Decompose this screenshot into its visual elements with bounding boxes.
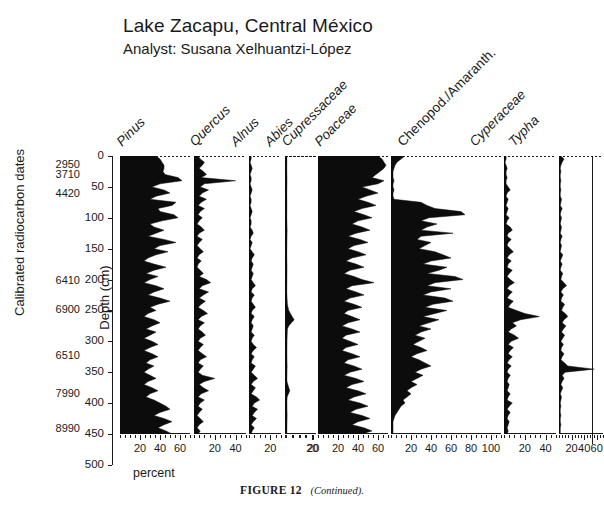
page-title: Lake Zacapu, Central México [123, 14, 543, 37]
x-tick [446, 435, 447, 438]
diagram-right-border [592, 156, 593, 444]
x-tick [323, 435, 324, 438]
x-tick [568, 435, 569, 438]
x-tick-label-cyperaceae-40: 40 [533, 442, 559, 454]
figure-caption: FIGURE 12 (Continued). [0, 484, 604, 496]
x-tick [436, 435, 437, 438]
x-tick [180, 435, 181, 440]
x-tick [501, 435, 502, 438]
x-tick [204, 435, 205, 438]
depth-tick-label-50: 50 [76, 180, 104, 192]
depth-tick-400 [108, 403, 112, 404]
x-tick [581, 435, 582, 438]
x-tick [486, 435, 487, 438]
x-tick [378, 435, 379, 440]
x-tick [293, 435, 294, 438]
x-tick [451, 435, 452, 440]
depth-tick-100 [108, 218, 112, 219]
x-tick [241, 435, 242, 438]
x-tick-label-alnus-20: 20 [257, 442, 283, 454]
x-tick [175, 435, 176, 438]
x-tick [496, 435, 497, 438]
x-tick [135, 435, 136, 438]
panel-alnus [249, 156, 281, 434]
x-ticks-poaceae [318, 435, 388, 440]
taxon-label-typha: Typha [505, 113, 541, 149]
x-tick [590, 435, 591, 438]
depth-tick-label-300: 300 [76, 334, 104, 346]
x-tick [210, 435, 211, 438]
x-tick [431, 435, 432, 440]
percent-axis-label: percent [133, 466, 175, 480]
depth-tick-label-450: 450 [76, 427, 104, 439]
x-tick [281, 435, 282, 438]
x-tick [572, 435, 573, 440]
panel-chenopod-amaranth [391, 156, 501, 434]
x-tick [306, 435, 307, 438]
x-tick [286, 435, 287, 438]
x-tick [461, 435, 462, 438]
depth-tick-300 [108, 341, 112, 342]
panel-quercus [194, 156, 246, 434]
taxon-label-alnus: Alnus [227, 115, 261, 149]
x-tick [236, 435, 237, 440]
x-tick [338, 435, 339, 440]
depth-tick-label-250: 250 [76, 303, 104, 315]
depth-tick-0 [108, 156, 112, 157]
x-tick [388, 435, 389, 438]
x-ticks-cupressaceae [286, 435, 316, 440]
x-ticks-quercus [194, 435, 246, 440]
x-tick [368, 435, 369, 438]
x-tick [220, 435, 221, 438]
x-tick [559, 435, 560, 438]
x-tick [160, 435, 161, 440]
radiocarbon-date-8990: 8990 [46, 422, 80, 434]
x-tick [353, 435, 354, 438]
x-tick [426, 435, 427, 438]
x-tick [476, 435, 477, 438]
depth-axis-line [112, 156, 113, 465]
radiocarbon-date-4420: 4420 [46, 187, 80, 199]
x-ticks-pinus [120, 435, 190, 440]
x-tick-label-typha-60: 60 [584, 442, 604, 454]
x-ticks-typha [559, 435, 603, 440]
x-tick [551, 435, 552, 438]
x-tick [391, 435, 392, 438]
pollen-diagram-figure: Lake Zacapu, Central México Analyst: Sus… [0, 0, 604, 511]
x-ticks-chenopod-amaranth [391, 435, 501, 440]
figure-number: FIGURE 12 [240, 484, 302, 496]
silhouette-poaceae [318, 156, 388, 434]
x-tick [530, 435, 531, 438]
panel-cupressaceae [286, 156, 316, 434]
depth-tick-label-200: 200 [76, 273, 104, 285]
depth-tick-label-500: 500 [76, 458, 104, 470]
x-tick [514, 435, 515, 438]
depth-tick-150 [108, 249, 112, 250]
depth-tick-label-350: 350 [76, 365, 104, 377]
depth-tick-label-100: 100 [76, 211, 104, 223]
x-tick [343, 435, 344, 438]
panel-pinus [120, 156, 190, 434]
x-tick-label-pinus-60: 60 [167, 442, 193, 454]
figure-note: (Continued). [311, 485, 364, 496]
x-tick [155, 435, 156, 438]
x-tick [254, 435, 255, 438]
x-tick [481, 435, 482, 438]
x-tick [525, 435, 526, 440]
silhouette-cyperaceae [504, 156, 556, 434]
x-tick [300, 435, 301, 438]
x-tick [373, 435, 374, 438]
depth-tick-label-0: 0 [76, 149, 104, 161]
silhouette-typha [559, 156, 603, 434]
depth-tick-label-400: 400 [76, 396, 104, 408]
silhouette-cupressaceae [286, 156, 316, 434]
x-tick [150, 435, 151, 438]
x-tick [185, 435, 186, 438]
x-tick [276, 435, 277, 438]
x-ticks-alnus [249, 435, 281, 440]
x-tick [491, 435, 492, 440]
radiocarbon-date-3710: 3710 [46, 168, 80, 180]
silhouette-chenopod-amaranth [391, 156, 501, 434]
x-tick-label-chenopod-amaranth-100: 100 [478, 442, 504, 454]
x-tick [194, 435, 195, 438]
